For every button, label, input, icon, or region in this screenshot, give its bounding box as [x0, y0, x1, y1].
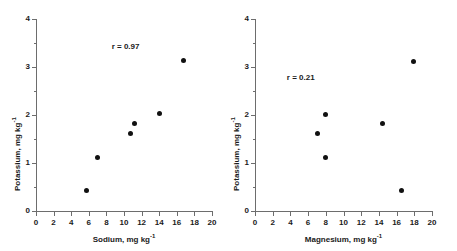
x-axis-tick-label: 4: [69, 219, 73, 227]
x-axis-tick-label: 4: [288, 219, 292, 227]
x-axis-tick: [273, 212, 274, 216]
x-axis-tick: [54, 212, 55, 216]
y-axis-minor-tick: [34, 139, 36, 140]
y-axis-tick: [32, 211, 36, 212]
x-axis-tick: [106, 212, 107, 216]
y-axis-tick-label: 0: [20, 207, 30, 215]
x-axis-tick: [290, 212, 291, 216]
x-axis-tick: [397, 212, 398, 216]
x-axis-tick: [124, 212, 125, 216]
data-point: [95, 155, 100, 160]
y-axis-title-text: Potassium, mg kg: [13, 123, 22, 191]
y-axis-tick-label: 0: [239, 207, 249, 215]
y-axis-tick-label: 4: [20, 15, 30, 23]
x-axis-title: Sodium, mg kg-1: [93, 236, 156, 244]
x-axis-tick-label: 10: [339, 219, 348, 227]
correlation-annotation: r = 0.21: [287, 74, 315, 82]
y-axis-minor-tick: [253, 187, 255, 188]
y-axis-line: [255, 19, 256, 212]
y-axis-minor-tick: [253, 43, 255, 44]
x-axis-tick: [361, 212, 362, 216]
x-axis-title-exponent: -1: [377, 233, 382, 239]
y-axis-title-exponent: -1: [230, 117, 236, 122]
x-axis-tick-label: 6: [306, 219, 310, 227]
y-axis-tick: [32, 67, 36, 68]
y-axis-minor-tick: [34, 43, 36, 44]
chart-panel-magnesium-potassium: 0246810121416182001234r = 0.21Magnesium,…: [229, 0, 457, 251]
x-axis-tick-label: 2: [270, 219, 274, 227]
x-axis-tick-label: 20: [208, 219, 217, 227]
y-axis-line: [36, 19, 37, 212]
x-axis-tick: [177, 212, 178, 216]
y-axis-tick-label: 3: [239, 63, 249, 71]
y-axis-minor-tick: [253, 139, 255, 140]
x-axis-title-text: Magnesium, mg kg: [305, 235, 377, 244]
x-axis-tick-label: 2: [51, 219, 55, 227]
x-axis-tick-label: 12: [357, 219, 366, 227]
x-axis-tick: [71, 212, 72, 216]
x-axis-tick: [194, 212, 195, 216]
x-axis-title-exponent: -1: [150, 233, 155, 239]
y-axis-title-exponent: -1: [11, 117, 17, 122]
x-axis-tick-label: 0: [253, 219, 257, 227]
y-axis-tick: [32, 19, 36, 20]
y-axis-minor-tick: [253, 91, 255, 92]
y-axis-tick: [251, 115, 255, 116]
y-axis-tick: [32, 163, 36, 164]
x-axis-tick: [432, 212, 433, 216]
x-axis-tick-label: 16: [172, 219, 181, 227]
scatter-plot-figure: 0246810121416182001234r = 0.97Sodium, mg…: [0, 0, 457, 251]
x-axis-tick-label: 16: [392, 219, 401, 227]
chart-panel-sodium-potassium: 0246810121416182001234r = 0.97Sodium, mg…: [0, 0, 228, 251]
x-axis-tick-label: 0: [34, 219, 38, 227]
y-axis-title-text: Potassium, mg kg: [232, 123, 241, 191]
y-axis-tick: [32, 115, 36, 116]
y-axis-tick: [251, 163, 255, 164]
x-axis-tick: [212, 212, 213, 216]
x-axis-tick: [344, 212, 345, 216]
x-axis-tick-label: 6: [87, 219, 91, 227]
x-axis-tick: [326, 212, 327, 216]
correlation-annotation: r = 0.97: [112, 43, 140, 51]
x-axis-tick-label: 10: [120, 219, 129, 227]
x-axis-title: Magnesium, mg kg-1: [305, 236, 382, 244]
x-axis-tick-label: 14: [374, 219, 383, 227]
x-axis-tick-label: 12: [137, 219, 146, 227]
y-axis-minor-tick: [34, 91, 36, 92]
data-point: [132, 121, 137, 126]
y-axis-tick-label: 4: [239, 15, 249, 23]
x-axis-tick-label: 8: [104, 219, 108, 227]
x-axis-title-text: Sodium, mg kg: [93, 235, 150, 244]
plot-area: [255, 19, 432, 211]
x-axis-tick-label: 14: [155, 219, 164, 227]
y-axis-tick: [251, 19, 255, 20]
x-axis-tick: [308, 212, 309, 216]
x-axis-tick: [142, 212, 143, 216]
y-axis-tick: [251, 67, 255, 68]
x-axis-tick-label: 8: [324, 219, 328, 227]
x-axis-tick: [159, 212, 160, 216]
y-axis-tick-label: 3: [20, 63, 30, 71]
x-axis-tick: [255, 212, 256, 216]
y-axis-title: Potassium, mg kg-1: [233, 117, 241, 191]
x-axis-tick-label: 18: [190, 219, 199, 227]
x-axis-tick: [414, 212, 415, 216]
data-point: [128, 131, 133, 136]
x-axis-tick-label: 18: [410, 219, 419, 227]
x-axis-tick: [379, 212, 380, 216]
data-point: [399, 188, 404, 193]
y-axis-tick: [251, 211, 255, 212]
x-axis-tick: [36, 212, 37, 216]
y-axis-title: Potassium, mg kg-1: [14, 117, 22, 191]
x-axis-tick-label: 20: [428, 219, 437, 227]
data-point: [380, 121, 385, 126]
data-point: [157, 111, 162, 116]
y-axis-minor-tick: [34, 187, 36, 188]
x-axis-tick: [89, 212, 90, 216]
